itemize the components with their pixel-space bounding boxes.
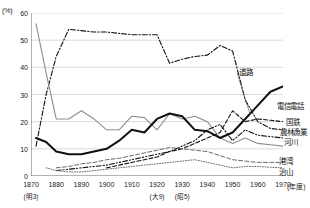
y-tick-label: 0 bbox=[8, 173, 28, 180]
series-label-5: 港湾 bbox=[279, 155, 292, 166]
series-label-6: 治山 bbox=[279, 166, 292, 177]
chart-root: (%) 0102030405060 1870188018901900191019… bbox=[0, 0, 310, 208]
x-tick-sublabel: (大9) bbox=[150, 191, 165, 201]
series-line-1 bbox=[36, 24, 283, 146]
y-tick-label: 40 bbox=[8, 64, 28, 71]
plot-area bbox=[31, 13, 283, 176]
x-tick-label: 1940 bbox=[200, 181, 216, 188]
x-tick-label: 1900 bbox=[99, 181, 115, 188]
series-line-2 bbox=[36, 86, 283, 154]
y-axis-tick-labels: 0102030405060 bbox=[6, 0, 28, 208]
x-tick-label: 1880 bbox=[48, 181, 64, 188]
x-tick-label: 1950 bbox=[225, 181, 241, 188]
series-label-1: 河川 bbox=[284, 136, 297, 147]
road-callout-leader bbox=[237, 73, 250, 115]
chart-svg bbox=[31, 13, 283, 176]
y-tick-label: 10 bbox=[8, 145, 28, 152]
x-axis-unit-label: (年度) bbox=[287, 181, 306, 191]
x-tick-label: 1920 bbox=[149, 181, 165, 188]
x-tick-label: 1930 bbox=[174, 181, 190, 188]
series-label-3: 電信電話 bbox=[277, 100, 304, 111]
series-line-5 bbox=[56, 147, 283, 167]
y-tick-label: 30 bbox=[8, 91, 28, 98]
y-tick-label: 50 bbox=[8, 37, 28, 44]
series-label-4: 農林漁業 bbox=[280, 126, 307, 137]
series-line-0 bbox=[36, 29, 283, 146]
y-tick-label: 20 bbox=[8, 118, 28, 125]
x-tick-label: 1890 bbox=[74, 181, 90, 188]
x-tick-label: 1970 bbox=[275, 181, 291, 188]
series-label-2: 道路 bbox=[239, 66, 252, 77]
x-tick-label: 1960 bbox=[250, 181, 266, 188]
x-tick-label: 1910 bbox=[124, 181, 140, 188]
x-tick-sublabel: (昭5) bbox=[175, 191, 190, 201]
y-tick-label: 60 bbox=[8, 10, 28, 17]
